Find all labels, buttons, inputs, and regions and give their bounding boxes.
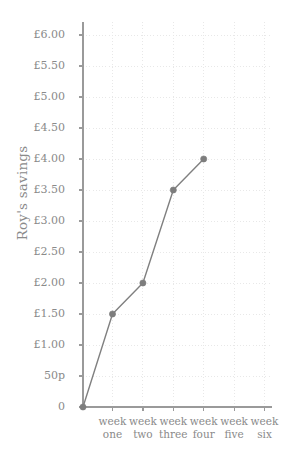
x-axis-tick-label: weeksix (244, 415, 286, 440)
data-markers (80, 156, 207, 410)
tick-marks (79, 35, 265, 411)
plot-area (0, 0, 288, 457)
axis-lines (83, 22, 272, 407)
x-axis-tick-label-line: six (244, 428, 286, 441)
grid-lines (83, 22, 272, 407)
line-chart: Roy's savings 050p£1.00£1.50£2.00£2.50£3… (0, 0, 288, 457)
x-axis-tick-label-line: week (244, 415, 286, 428)
